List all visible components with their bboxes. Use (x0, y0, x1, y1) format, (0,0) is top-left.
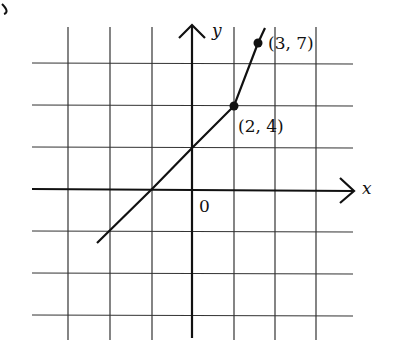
axes (32, 25, 354, 338)
corner-mark-icon (2, 4, 7, 14)
data-point-dot (254, 39, 263, 48)
origin-label: 0 (199, 196, 210, 216)
chart-canvas (0, 0, 394, 364)
point-label-3-7: (3, 7) (268, 33, 314, 53)
y-axis-label: y (212, 20, 222, 40)
point-label-2-4: (2, 4) (238, 116, 284, 136)
data-point-dot (230, 102, 239, 111)
x-axis-label: x (362, 178, 372, 198)
